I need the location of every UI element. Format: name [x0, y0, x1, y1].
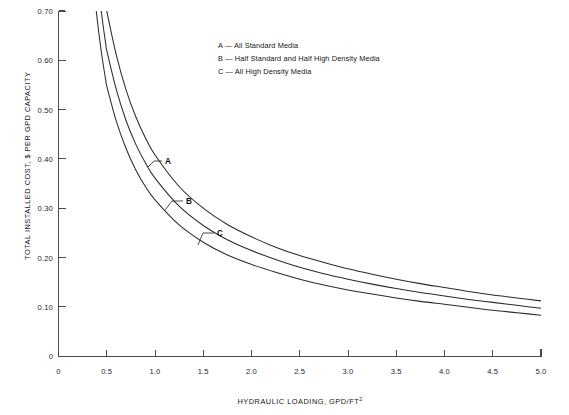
- x-axis-title: HYDRAULIC LOADING, GPD/FT2: [237, 396, 362, 406]
- y-tick-label: 0.10: [38, 303, 53, 312]
- y-tick-label: 0.20: [38, 254, 53, 263]
- x-tick-label: 4.0: [439, 367, 450, 376]
- x-tick-label: 5.0: [535, 367, 546, 376]
- curves-group: [86, 0, 541, 315]
- x-ticks: [59, 350, 542, 357]
- y-tick-labels: 0.70 0.60 0.50 0.40 0.30 0.20 0.10 0: [38, 7, 53, 361]
- x-tick-label: 4.5: [487, 367, 498, 376]
- legend-entry-a: A — All Standard Media: [218, 41, 299, 50]
- legend-entry-c: C — All High Density Media: [218, 67, 312, 76]
- curve-c: [86, 0, 541, 315]
- y-tick-label: 0.60: [38, 56, 53, 65]
- x-tick-label: 2.0: [246, 367, 257, 376]
- curve-label-b: B: [186, 197, 192, 206]
- y-tick-label: 0.30: [38, 204, 53, 213]
- legend-entry-b: B — Half Standard and Half High Density …: [218, 54, 381, 63]
- x-tick-label: 3.0: [342, 367, 353, 376]
- x-tick-labels: 0 0.5 1.0 1.5 2.0 2.5 3.0 3.5 4.0 4.5 5.…: [56, 367, 546, 376]
- leader-line-c: [198, 233, 214, 245]
- curve-label-a: A: [165, 157, 171, 166]
- x-tick-label: 3.5: [391, 367, 402, 376]
- curve-annotations: A B C: [148, 157, 223, 245]
- legend: A — All Standard Media B — Half Standard…: [218, 41, 381, 76]
- curve-a: [86, 0, 541, 301]
- x-tick-label: 0: [56, 367, 60, 376]
- x-tick-label: 0.5: [101, 367, 112, 376]
- x-tick-label: 2.5: [294, 367, 305, 376]
- x-tick-label: 1.0: [149, 367, 160, 376]
- y-tick-label: 0.40: [38, 155, 53, 164]
- x-axis-title-text: HYDRAULIC LOADING, GPD/FT: [237, 397, 359, 406]
- curve-label-c: C: [217, 229, 223, 238]
- leader-line-b: [165, 201, 183, 210]
- y-tick-label: 0.70: [38, 7, 53, 16]
- y-ticks: [59, 11, 66, 356]
- chart-figure: 0.70 0.60 0.50 0.40 0.30 0.20 0.10 0 0: [0, 0, 569, 415]
- chart-canvas: 0.70 0.60 0.50 0.40 0.30 0.20 0.10 0 0: [0, 0, 569, 415]
- y-tick-label: 0: [49, 352, 53, 361]
- y-tick-label: 0.50: [38, 106, 53, 115]
- y-axis-title: TOTAL INSTALLED COST, $ PER GPD CAPACITY: [23, 72, 32, 260]
- x-axis-title-superscript: 2: [359, 396, 362, 402]
- x-axis-title-group: HYDRAULIC LOADING, GPD/FT2: [237, 396, 362, 406]
- x-tick-label: 1.5: [198, 367, 209, 376]
